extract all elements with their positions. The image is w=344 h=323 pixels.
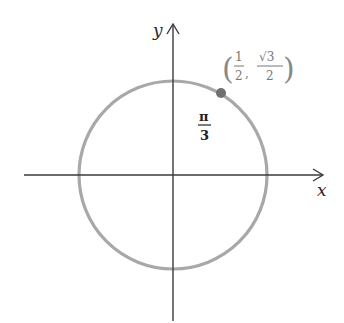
close-paren: ) bbox=[283, 51, 295, 86]
coord-y-denominator: 2 bbox=[266, 69, 274, 83]
coord-separator: , bbox=[245, 66, 249, 80]
y-axis bbox=[167, 24, 179, 321]
coord-x-numerator: 1 bbox=[235, 50, 243, 64]
coord-y-numerator: √3 bbox=[259, 50, 274, 64]
coordinate-label: ( 1 2 , √3 2 ) bbox=[222, 50, 295, 86]
angle-numerator: π bbox=[199, 109, 209, 124]
y-axis-label: y bbox=[152, 20, 163, 40]
coord-x-denominator: 2 bbox=[235, 69, 243, 83]
x-axis-label: x bbox=[317, 180, 327, 200]
open-paren: ( bbox=[222, 51, 234, 86]
point-marker bbox=[216, 88, 226, 98]
angle-label: π 3 bbox=[198, 109, 211, 143]
unit-circle-diagram: x y π 3 ( 1 2 , √3 2 ) bbox=[0, 0, 344, 323]
angle-denominator: 3 bbox=[200, 128, 209, 143]
